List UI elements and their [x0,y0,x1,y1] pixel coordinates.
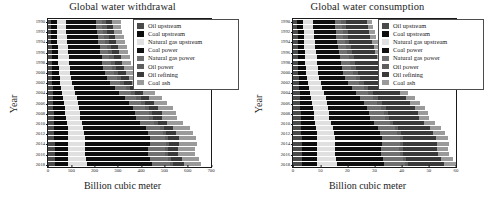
y-axis-tick-mark [46,134,48,135]
legend-item[interactable]: Coal ash [137,79,235,87]
legend-item[interactable]: Coal ash [382,79,480,87]
legend-item[interactable]: Oil power [382,62,480,70]
y-axis-tick-label: 2006 [36,101,45,105]
bar-segment [85,152,148,156]
legend-item[interactable]: Oil refining [382,71,480,79]
bar-row[interactable] [293,106,456,110]
bar-row[interactable] [48,142,211,146]
bar-segment [324,91,356,95]
bar-segment [382,101,411,105]
bar-row[interactable] [293,147,456,151]
x-axis-tick-mark [141,165,142,167]
bar-row[interactable] [48,131,211,135]
legend-item-label: Oil refining [148,71,178,79]
legend-item[interactable]: Coal power [382,46,480,54]
legend-item[interactable]: Natural gas power [382,54,480,62]
legend-withdrawal: Oil upstreamCoal upstreamNatural gas ups… [133,19,239,90]
bar-row[interactable] [293,96,456,100]
bar-row[interactable] [293,91,456,95]
x-axis-tick-label: 0 [292,167,294,174]
bar-row[interactable] [48,126,211,130]
bar-row[interactable] [293,111,456,115]
legend-swatch-icon [137,31,144,37]
bar-row[interactable] [48,106,211,110]
bar-segment [336,157,382,161]
bar-segment [58,55,68,59]
bar-segment [124,66,133,70]
legend-item[interactable]: Coal upstream [137,30,235,38]
bar-segment [119,91,130,95]
legend-item[interactable]: Oil refining [137,71,235,79]
bar-segment [135,111,148,115]
bar-row[interactable] [293,157,456,161]
bar-segment [335,142,382,146]
bar-segment [293,111,301,115]
y-axis-tick-mark [291,22,293,23]
bar-row[interactable] [48,116,211,120]
bar-segment [145,101,154,105]
bar-row[interactable] [48,152,211,156]
bar-row[interactable] [48,121,211,125]
bar-row[interactable] [293,136,456,140]
bar-segment [70,71,104,75]
x-axis-tick-label: 700 [207,167,214,174]
bar-segment [298,66,305,70]
bar-segment [182,157,199,161]
bar-segment [48,157,55,161]
bar-segment [79,106,133,110]
y-axis-tick-mark [291,155,293,156]
bar-row[interactable] [48,96,211,100]
bar-segment [65,111,79,115]
bar-row[interactable] [293,131,456,135]
bar-row[interactable] [293,126,456,130]
bar-segment [112,20,120,24]
bar-row[interactable] [293,142,456,146]
bar-segment [140,121,154,125]
x-axis-ticks-consumption: 0102030405060 [292,167,456,181]
bar-segment [68,157,86,161]
bar-segment [158,106,172,110]
y-axis-tick-mark [291,104,293,105]
legend-swatch-icon [137,56,144,62]
bar-segment [52,81,60,85]
bar-segment [351,45,374,49]
bar-row[interactable] [48,162,211,166]
bar-row[interactable] [48,157,211,161]
legend-item[interactable]: Natural gas upstream [382,38,480,46]
bar-segment [152,111,161,115]
bar-row[interactable] [48,136,211,140]
bar-segment [173,126,190,130]
bar-row[interactable] [48,91,211,95]
bar-segment [72,81,110,85]
bar-segment [125,96,137,100]
y-axis-tick-mark [46,53,48,54]
bar-segment [383,157,403,161]
legend-item[interactable]: Oil upstream [137,22,235,30]
y-axis-tick-mark [46,165,48,166]
bar-row[interactable] [48,101,211,105]
legend-item[interactable]: Natural gas upstream [137,38,235,46]
bar-segment [304,35,314,39]
bar-segment [364,101,378,105]
bar-row[interactable] [48,111,211,115]
bar-segment [53,91,62,95]
y-axis-tick-label: 1990 [281,20,290,24]
bar-segment [293,126,301,130]
bar-row[interactable] [293,101,456,105]
bar-row[interactable] [48,147,211,151]
bar-segment [354,55,378,59]
bar-row[interactable] [293,121,456,125]
legend-item[interactable]: Natural gas power [137,54,235,62]
bar-segment [393,121,424,125]
bar-row[interactable] [293,152,456,156]
bar-row[interactable] [293,116,456,120]
bar-segment [164,126,174,130]
bar-segment [150,157,168,161]
legend-item[interactable]: Coal power [137,46,235,54]
legend-item-label: Oil upstream [148,22,181,30]
bar-segment [293,136,302,140]
legend-item[interactable]: Oil power [137,62,235,70]
legend-item[interactable]: Oil upstream [382,22,480,30]
legend-item[interactable]: Coal upstream [382,30,480,38]
bar-segment [380,131,397,135]
